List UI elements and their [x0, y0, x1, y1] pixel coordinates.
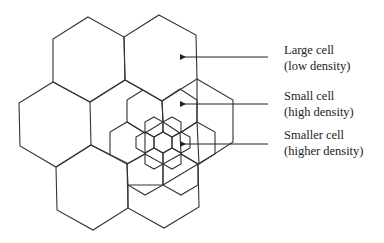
label-smaller-cell-density: (higher density): [284, 143, 364, 159]
large-cell-center: [90, 80, 143, 102]
small-cell-left: [110, 122, 145, 164]
label-small-cell-density: (high density): [284, 104, 354, 120]
label-small-cell-title: Small cell: [284, 88, 354, 104]
label-smaller-cell-title: Smaller cell: [284, 127, 364, 143]
large-cell-left: [19, 82, 91, 167]
label-large-cell-density: (low density): [284, 58, 350, 74]
label-smaller-cell: Smaller cell (higher density): [284, 127, 364, 159]
large-cell-bottom-left: [56, 145, 128, 230]
label-large-cell-title: Large cell: [284, 42, 350, 58]
cell-diagram: [0, 0, 384, 243]
large-cell-center-left: [91, 145, 110, 155]
small-cell-top-right: [162, 89, 197, 133]
small-cells: [110, 89, 215, 195]
large-cell-top-left: [53, 17, 125, 102]
label-small-cell: Small cell (high density): [284, 88, 354, 120]
large-cell-top-right: [124, 15, 197, 101]
label-large-cell: Large cell (low density): [284, 42, 350, 74]
smaller-cells: [136, 117, 190, 169]
